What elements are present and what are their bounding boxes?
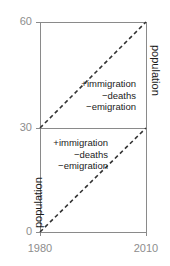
upper-annotation-line-1: +immigration	[74, 78, 136, 90]
lower-annotation-line-2: −deaths	[46, 149, 108, 161]
upper-panel-annotation: +immigration −deaths −emigration	[74, 78, 136, 113]
lower-annotation-line-1: +immigration	[46, 137, 108, 149]
upper-annotation-line-2: −deaths	[74, 90, 136, 102]
lower-panel-annotation: +immigration −deaths −emigration	[46, 137, 108, 172]
upper-annotation-line-3: −emigration	[74, 101, 136, 113]
lower-panel-axis-title: population	[33, 177, 44, 228]
population-growth-chart: 60 30 0 1980 2010 +immigration −deaths −…	[0, 0, 170, 266]
upper-panel-axis-title: population	[150, 45, 161, 96]
series-layer	[0, 0, 170, 266]
lower-annotation-line-3: −emigration	[46, 160, 108, 172]
